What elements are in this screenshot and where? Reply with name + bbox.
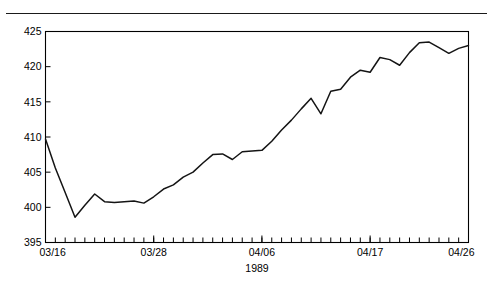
y-tick-label: 420 — [24, 60, 42, 72]
x-axis-ticks — [46, 236, 469, 243]
data-series-line — [46, 42, 469, 217]
x-tick-label: 03/28 — [141, 246, 167, 258]
y-tick-label: 415 — [24, 96, 42, 108]
y-axis-ticks — [46, 32, 51, 243]
x-tick-label: 03/16 — [40, 246, 66, 258]
x-axis-tick-labels: 03/1603/2804/0604/1704/26 — [40, 246, 475, 258]
chart-figure: 395400405410415420425 03/1603/2804/0604/… — [0, 0, 493, 287]
x-axis-title: 1989 — [245, 262, 269, 274]
x-tick-label: 04/26 — [448, 246, 474, 258]
y-tick-label: 405 — [24, 166, 42, 178]
line-chart-plot: 395400405410415420425 03/1603/2804/0604/… — [0, 0, 493, 287]
y-tick-label: 400 — [24, 201, 42, 213]
x-axis-title-label: 1989 — [245, 262, 269, 274]
plot-frame — [46, 32, 469, 243]
series-polyline — [46, 42, 469, 217]
y-axis-tick-labels: 395400405410415420425 — [24, 25, 42, 248]
y-tick-label: 425 — [24, 25, 42, 37]
y-tick-label: 410 — [24, 131, 42, 143]
x-tick-label: 04/06 — [249, 246, 275, 258]
x-tick-label: 04/17 — [357, 246, 383, 258]
